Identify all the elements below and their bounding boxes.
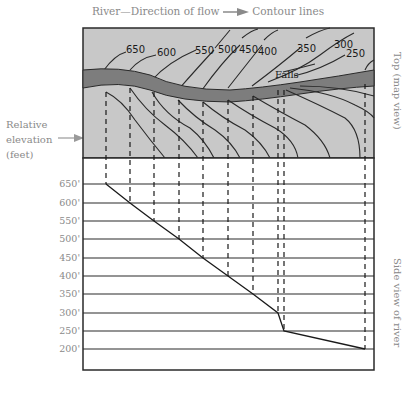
y-tick-250: 250' — [52, 325, 80, 336]
y-tick-600: 600' — [52, 197, 80, 208]
contour-label-500: 500 — [218, 44, 237, 55]
y-tick-500: 500' — [52, 233, 80, 244]
contour-label-450: 450 — [239, 44, 258, 55]
contour-label-250: 250 — [346, 48, 365, 59]
y-tick-650: 650' — [52, 178, 80, 189]
contour-label-550: 550 — [195, 45, 214, 56]
falls-label: Falls — [275, 69, 299, 80]
y-tick-550: 550' — [52, 215, 80, 226]
contour-label-350: 350 — [297, 43, 316, 54]
y-tick-450: 450' — [52, 252, 80, 263]
y-tick-400: 400' — [52, 270, 80, 281]
y-tick-200: 200' — [52, 343, 80, 354]
contour-label-600: 600 — [157, 47, 176, 58]
y-tick-300: 300' — [52, 307, 80, 318]
contour-label-650: 650 — [126, 44, 145, 55]
y-tick-350: 350' — [52, 288, 80, 299]
contour-label-400: 400 — [258, 46, 277, 57]
